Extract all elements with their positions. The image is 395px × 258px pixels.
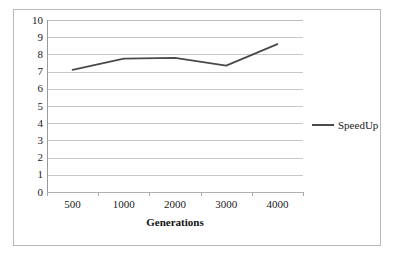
plot-area [47, 20, 303, 192]
y-axis-line [47, 20, 48, 193]
y-axis-tick-label: 7 [19, 66, 43, 77]
x-axis-tickmark [98, 192, 99, 196]
y-axis-tick-label: 2 [19, 152, 43, 163]
gridline [47, 72, 303, 73]
y-axis-tick-label: 6 [19, 83, 43, 94]
gridline [47, 89, 303, 90]
x-axis-tick-labels: 5001000200030004000 [47, 198, 303, 212]
y-axis-tick-labels: 012345678910 [17, 0, 43, 258]
x-axis-tick-label: 1000 [97, 198, 151, 210]
y-axis-tick-label: 4 [19, 118, 43, 129]
gridline [47, 175, 303, 176]
y-axis-tick-label: 1 [19, 169, 43, 180]
x-axis-tickmark [201, 192, 202, 196]
gridline [47, 192, 303, 193]
y-axis-tick-label: 9 [19, 32, 43, 43]
x-axis-tickmark [47, 192, 48, 196]
x-axis-tickmark [149, 192, 150, 196]
y-axis-tick-label: 8 [19, 49, 43, 60]
x-axis-tick-label: 3000 [199, 198, 253, 210]
gridline [47, 106, 303, 107]
legend-label-speedup: SpeedUp [338, 119, 378, 131]
x-axis-tick-label: 2000 [148, 198, 202, 210]
legend: SpeedUp [312, 118, 378, 132]
gridline [47, 140, 303, 141]
gridline [47, 20, 303, 21]
x-axis-tickmark [252, 192, 253, 196]
gridline [47, 123, 303, 124]
legend-line-swatch [312, 124, 334, 126]
x-axis-tickmark [303, 192, 304, 196]
x-axis-title: Generations [47, 216, 303, 228]
x-axis-tick-label: 500 [46, 198, 100, 210]
y-axis-tick-label: 10 [19, 15, 43, 26]
gridline [47, 37, 303, 38]
x-axis-tick-label: 4000 [250, 198, 304, 210]
y-axis-tick-label: 5 [19, 101, 43, 112]
gridline [47, 158, 303, 159]
y-axis-tick-label: 3 [19, 135, 43, 146]
gridline [47, 54, 303, 55]
y-axis-tick-label: 0 [19, 187, 43, 198]
